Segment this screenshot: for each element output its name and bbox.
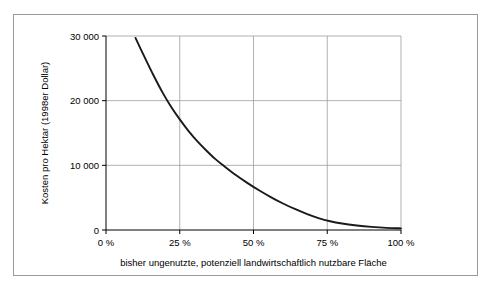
x-axis-tick-marks	[106, 230, 401, 234]
tick-label-x: 100 %	[388, 237, 415, 248]
tick-label-y: 30 000	[70, 31, 99, 42]
chart-plot-area: 010 00020 00030 000 0 %25 %50 %75 %100 %…	[14, 15, 477, 275]
tick-label-x: 50 %	[243, 237, 265, 248]
y-axis-title: Kosten pro Hektar (1998er Dollar)	[39, 62, 50, 205]
tick-label-x: 75 %	[316, 237, 338, 248]
tick-label-y: 0	[94, 225, 99, 236]
x-axis-tick-labels: 0 %25 %50 %75 %100 %	[98, 237, 415, 248]
line-chart: 010 00020 00030 000 0 %25 %50 %75 %100 %…	[14, 15, 477, 275]
x-axis-title: bisher ungenutzte, potenziell landwirtsc…	[120, 257, 387, 268]
tick-label-y: 10 000	[70, 160, 99, 171]
y-axis-tick-labels: 010 00020 00030 000	[70, 31, 99, 236]
figure-frame: 010 00020 00030 000 0 %25 %50 %75 %100 %…	[13, 14, 478, 276]
tick-label-x: 0 %	[98, 237, 115, 248]
caption-fragment	[14, 281, 314, 292]
vertical-gridlines	[180, 36, 401, 230]
y-axis-tick-marks	[102, 36, 106, 230]
cost-per-hectare-curve	[136, 38, 402, 228]
tick-label-y: 20 000	[70, 95, 99, 106]
tick-label-x: 25 %	[169, 237, 191, 248]
